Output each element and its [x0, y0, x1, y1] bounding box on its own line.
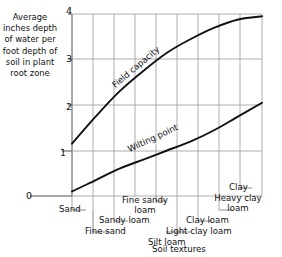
texture-label-sand: Sand: [59, 204, 81, 214]
texture-label-heavy-clay-loam: Heavy clay loam: [208, 193, 268, 213]
texture-label-heavy-clay-loam-line1: Heavy clay: [214, 193, 261, 203]
texture-label-fine-sand: Fine sand: [85, 226, 126, 236]
texture-label-fine-sandy-loam-line2: loam: [134, 205, 155, 215]
y-tick-label-4: 4: [58, 5, 72, 16]
y-tick-label-3: 3: [58, 53, 72, 64]
texture-label-clay: Clay: [229, 182, 248, 192]
texture-label-fine-sandy-loam-line1: Fine sandy: [122, 195, 168, 205]
texture-label-light-clay-loam: Light clay loam: [166, 226, 232, 236]
texture-label-heavy-clay-loam-line2: loam: [227, 203, 248, 213]
y-tick-label-1: 1: [52, 147, 66, 158]
texture-label-fine-sandy-loam: Fine sandy loam: [117, 195, 173, 215]
y-axis-title: Average inches depth of water per foot d…: [2, 12, 58, 79]
x-axis-title: Soil textures: [152, 244, 206, 254]
texture-label-clay-loam: Clay loam: [186, 215, 229, 225]
y-tick-label-0: 0: [18, 190, 32, 201]
y-tick-label-2: 2: [58, 101, 72, 112]
texture-label-sandy-loam: Sandy loam: [99, 215, 150, 225]
